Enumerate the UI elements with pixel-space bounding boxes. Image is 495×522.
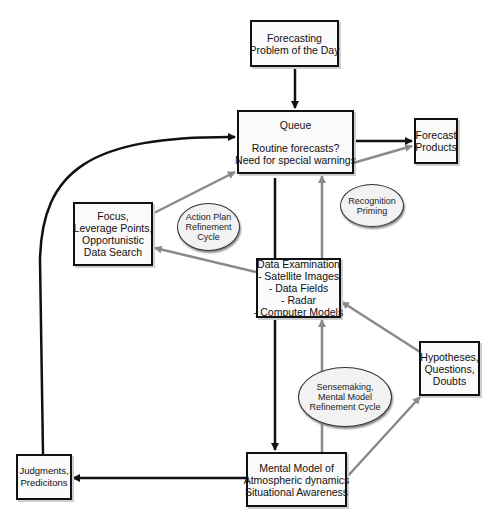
node-text: Situational Awareness	[245, 486, 348, 498]
node-text: Data Search	[84, 246, 142, 258]
node-text: Judgments,	[19, 465, 68, 477]
node-text: Predicitons	[21, 477, 68, 489]
node-text: Forecast	[416, 129, 457, 141]
node-text: Hypotheses,	[420, 351, 478, 363]
node-text: - Satellite Images	[258, 270, 339, 282]
cycle-text: Cycle	[197, 232, 220, 242]
node-text: Need for special warnings	[235, 154, 356, 166]
node-text: Problem of the Day	[250, 44, 340, 56]
arrow-hypotheses-to-data	[342, 302, 420, 352]
node-text: Atmospheric dynamics	[244, 474, 350, 486]
arrow-data-to-focus	[155, 248, 256, 272]
node-text: Products	[415, 141, 456, 153]
node-text: Routine forecasts?	[252, 142, 340, 154]
node-text: Focus,	[97, 210, 129, 222]
node-text: Mental Model of	[259, 462, 334, 474]
cycle-text: Sensemaking,	[316, 382, 373, 392]
node-forecasting-problem: Forecasting Problem of the Day	[250, 20, 339, 67]
node-mental-model: Mental Model of Atmospheric dynamics Sit…	[246, 452, 347, 507]
cycle-recognition-priming: Recognition Priming	[340, 184, 404, 227]
node-text: Opportunistic	[82, 234, 144, 246]
node-focus: Focus, Leverage Points, Opportunistic Da…	[73, 202, 153, 266]
node-text: Leverage Points,	[74, 222, 153, 234]
node-hypotheses: Hypotheses, Questions, Doubts	[419, 341, 480, 396]
cycle-text: Action Plan	[186, 212, 232, 222]
cycle-text: Priming	[357, 206, 388, 216]
cycle-action-plan: Action Plan Refinement Cycle	[177, 203, 240, 251]
node-title: Queue	[280, 119, 312, 131]
node-text: Doubts	[433, 375, 466, 387]
node-judgments: Judgments, Predicitons	[16, 454, 72, 500]
cycle-sensemaking: Sensemaking, Mental Model Refinement Cyc…	[298, 367, 392, 427]
node-data-examination: Data Examination - Satellite Images - Da…	[256, 258, 341, 318]
node-text: - Data Fields	[269, 282, 329, 294]
node-text: Questions,	[424, 363, 474, 375]
cycle-text: Recognition	[348, 196, 396, 206]
node-text: Forecasting	[267, 32, 322, 44]
node-title: Data Examination	[257, 258, 340, 270]
arrow-gray-to-products	[353, 146, 412, 163]
node-text: - Radar	[281, 294, 316, 306]
node-text: - Computer Models	[254, 306, 343, 318]
cycle-text: Refinement Cycle	[309, 402, 380, 412]
node-forecast-products: Forecast Products	[414, 118, 458, 164]
cycle-text: Refinement	[185, 222, 231, 232]
cycle-text: Mental Model	[318, 392, 372, 402]
node-queue: Queue Routine forecasts? Need for specia…	[237, 110, 354, 174]
arrow-judgments-to-queue	[40, 137, 235, 454]
